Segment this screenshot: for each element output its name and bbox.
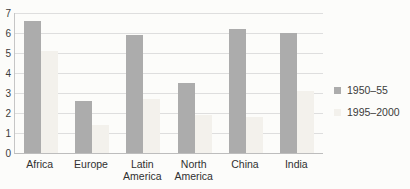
x-axis: AfricaEuropeLatin AmericaNorth AmericaCh… <box>14 158 322 182</box>
bar-group-europe <box>66 13 117 153</box>
y-tick-label-4: 4 <box>0 68 11 79</box>
bar-north-america-1950-55 <box>178 83 195 153</box>
bar-group-north-america <box>169 13 220 153</box>
category-label-china: China <box>219 158 270 182</box>
category-label-india: India <box>271 158 322 182</box>
y-tick-label-2: 2 <box>0 108 11 119</box>
y-tick-label-6: 6 <box>0 28 11 39</box>
legend-item-1950-55: 1950–55 <box>334 84 400 96</box>
bar-china-1950-55 <box>229 29 246 153</box>
bar-chart-figure: 01234567 AfricaEuropeLatin AmericaNorth … <box>0 0 410 189</box>
category-label-europe: Europe <box>65 158 116 182</box>
legend-label-1995-2000: 1995–2000 <box>347 106 400 118</box>
bar-africa-1995-2000 <box>41 51 58 153</box>
legend-marker-1995-2000-icon <box>334 109 341 116</box>
bar-india-1995-2000 <box>297 91 314 153</box>
category-label-north-america: North America <box>168 158 219 182</box>
y-tick-label-1: 1 <box>0 128 11 139</box>
bar-india-1950-55 <box>280 33 297 153</box>
category-label-latin-america: Latin America <box>117 158 168 182</box>
bar-group-latin-america <box>118 13 169 153</box>
legend-label-1950-55: 1950–55 <box>347 84 388 96</box>
y-tick-label-3: 3 <box>0 88 11 99</box>
legend-marker-1950-55-icon <box>334 87 341 94</box>
bar-africa-1950-55 <box>24 21 41 153</box>
y-tick-label-7: 7 <box>0 8 11 19</box>
bar-group-china <box>220 13 271 153</box>
y-tick-label-5: 5 <box>0 48 11 59</box>
y-tick-label-0: 0 <box>0 148 11 159</box>
plot-area <box>14 13 323 154</box>
legend: 1950–551995–2000 <box>334 84 400 118</box>
bar-group-india <box>272 13 323 153</box>
bar-europe-1950-55 <box>75 101 92 153</box>
bar-north-america-1995-2000 <box>195 115 212 153</box>
bar-latin-america-1950-55 <box>126 35 143 153</box>
bars-layer <box>15 13 323 153</box>
legend-item-1995-2000: 1995–2000 <box>334 106 400 118</box>
bar-latin-america-1995-2000 <box>143 99 160 153</box>
bar-china-1995-2000 <box>246 117 263 153</box>
bar-europe-1995-2000 <box>92 125 109 153</box>
category-label-africa: Africa <box>14 158 65 182</box>
bar-group-africa <box>15 13 66 153</box>
